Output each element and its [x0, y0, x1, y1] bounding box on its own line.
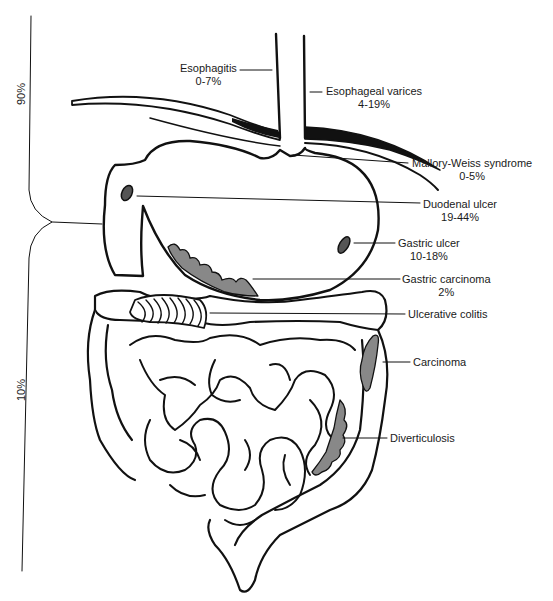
label-name: Esophagitis [180, 62, 237, 75]
esophagus [276, 34, 305, 138]
label-percent: 0-5% [412, 170, 532, 183]
label-gastric-carcinoma: Gastric carcinoma 2% [402, 273, 491, 299]
label-name: Diverticulosis [390, 432, 455, 445]
label-name: Ulcerative colitis [408, 308, 487, 321]
label-mallory-weiss: Mallory-Weiss syndrome 0-5% [412, 157, 532, 183]
label-name: Gastric ulcer [398, 237, 460, 250]
label-ulcerative-colitis: Ulcerative colitis [408, 308, 487, 321]
label-name: Mallory-Weiss syndrome [412, 157, 532, 170]
label-name: Duodenal ulcer [423, 198, 497, 211]
label-name: Esophageal varices [326, 85, 422, 98]
label-percent: 0-7% [180, 75, 237, 88]
upper-bracket-label: 90% [15, 83, 27, 105]
gi-tract-illustration [0, 0, 553, 601]
label-esophagitis: Esophagitis 0-7% [180, 62, 237, 88]
label-percent: 2% [402, 286, 491, 299]
label-name: Carcinoma [413, 356, 466, 369]
label-percent: 4-19% [326, 98, 422, 111]
label-diverticulosis: Diverticulosis [390, 432, 455, 445]
label-name: Gastric carcinoma [402, 273, 491, 286]
label-duodenal-ulcer: Duodenal ulcer 19-44% [423, 198, 497, 224]
label-gastric-ulcer: Gastric ulcer 10-18% [398, 237, 460, 263]
label-percent: 10-18% [398, 250, 460, 263]
stomach [104, 141, 379, 300]
lower-bracket-label: 10% [15, 379, 27, 401]
label-carcinoma: Carcinoma [413, 356, 466, 369]
label-esophageal-varices: Esophageal varices 4-19% [326, 85, 422, 111]
label-percent: 19-44% [423, 211, 497, 224]
